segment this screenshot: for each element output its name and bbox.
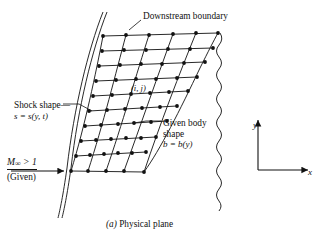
- shock-shape-title: Shock shape: [14, 100, 61, 110]
- downstream-boundary-line: [103, 33, 218, 36]
- downstream-boundary-label: Downstream boundary: [143, 11, 228, 22]
- outflow-wavy-boundary: [217, 33, 222, 211]
- caption-text: Physical plane: [117, 219, 173, 229]
- mach-symbol: M: [7, 156, 15, 167]
- mach-expression: M∞ > 1: [7, 156, 37, 170]
- grid-columns: [71, 33, 196, 172]
- caption-marker: (a): [106, 219, 117, 229]
- given-body-line1: Given body: [163, 118, 207, 128]
- given-body-equation: b = b(y): [163, 139, 207, 149]
- mach-given-note: (Given): [7, 172, 37, 183]
- given-body-line2: shape: [163, 129, 184, 139]
- given-body-shape-label: Given body shape b = b(y): [163, 118, 207, 150]
- grid-node-label: (i, j): [131, 84, 146, 94]
- shock-shape-dash: —: [61, 100, 70, 110]
- physical-plane-figure: Downstream boundary Shock shape— s = s(y…: [0, 0, 323, 245]
- shock-shape-equation: s = s(y, t): [14, 111, 70, 121]
- diagram-canvas: [0, 0, 323, 245]
- x-axis-label: x: [308, 167, 312, 177]
- freestream-mach-label: M∞ > 1 (Given): [7, 156, 37, 183]
- mach-condition: > 1: [21, 156, 37, 167]
- body-shape-curve: [144, 33, 218, 172]
- grid-rows: [71, 48, 213, 172]
- coordinate-axes: [258, 120, 308, 170]
- y-axis-label: y: [253, 120, 257, 130]
- figure-caption: (a) Physical plane: [106, 219, 173, 230]
- shock-shape-label: Shock shape— s = s(y, t): [14, 100, 70, 121]
- grid-nodes: [69, 31, 220, 174]
